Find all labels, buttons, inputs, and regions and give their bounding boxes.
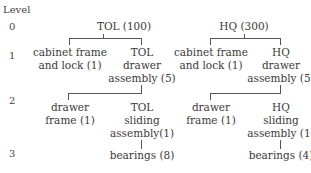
tol-drawer-assembly-node: TOL drawer assembly (5) [102,46,182,85]
level-3: 3 [9,148,15,159]
connector [68,93,69,100]
connector [280,38,281,45]
connector [141,38,142,45]
hq-sliding-assembly-node: HQ sliding assembly (1) [241,101,311,140]
tol-cabinet-node: cabinet frame and lock (1) [30,46,110,72]
connector [280,140,281,149]
connector [69,38,70,45]
connector [141,140,142,149]
level-0: 0 [9,21,15,32]
connector [210,38,281,39]
hq-drawer-assembly-node: HQ drawer assembly (5) [241,46,311,85]
level-1: 1 [9,50,15,61]
hq-cabinet-node: cabinet frame and lock (1) [171,46,251,72]
connector [68,93,142,94]
level-header: Level [3,4,30,15]
connector [210,93,281,94]
tol-root-node: TOL (100) [84,20,164,33]
connector [210,38,211,45]
hq-bearings-node: bearings (4) [241,149,311,162]
tol-sliding-assembly-node: TOL sliding assembly(1) [102,101,182,140]
connector [210,93,211,100]
tol-drawer-frame-node: drawer frame (1) [30,101,110,127]
connector [69,38,142,39]
tol-bearings-node: bearings (8) [102,149,182,162]
hq-drawer-frame-node: drawer frame (1) [171,101,251,127]
level-2: 2 [9,95,15,106]
hq-root-node: HQ (300) [204,20,284,33]
